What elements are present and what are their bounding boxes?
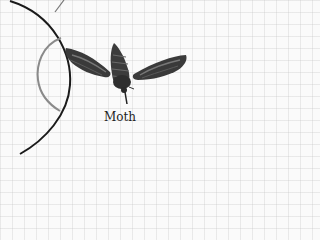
outer-arc [10,1,70,154]
moth-label: Moth [104,110,136,124]
diagram-canvas: Moth [0,0,197,156]
diagram-svg [0,0,197,156]
top-line [55,0,64,12]
inner-arc [38,38,61,111]
moth-icon [65,43,186,104]
